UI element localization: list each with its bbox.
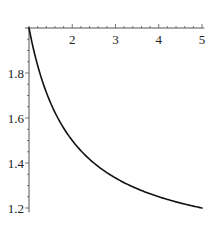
x-tick-label: 4 <box>156 32 163 47</box>
x-tick-label: 2 <box>69 32 76 47</box>
tick-labels: 23451.21.41.61.8 <box>8 32 206 216</box>
y-tick-label: 1.2 <box>8 201 24 216</box>
x-tick-label: 5 <box>199 32 206 47</box>
axes <box>25 26 204 212</box>
data-curve <box>29 28 202 208</box>
plot-canvas: 23451.21.41.61.8 <box>0 0 218 231</box>
y-tick-label: 1.8 <box>8 66 24 81</box>
y-tick-label: 1.4 <box>8 156 25 171</box>
ticks <box>25 24 202 208</box>
x-tick-label: 3 <box>112 32 119 47</box>
y-tick-label: 1.6 <box>8 111 25 126</box>
